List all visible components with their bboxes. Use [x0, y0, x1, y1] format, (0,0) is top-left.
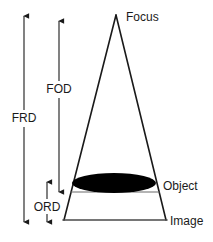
ord-label: ORD	[34, 200, 61, 214]
dimension-fod: FOD	[46, 21, 72, 192]
diagram-canvas: FRD FOD ORD Focus Object Image	[0, 0, 213, 242]
dimension-frd: FRD	[12, 16, 37, 222]
object-label: Object	[163, 179, 198, 193]
radiography-geometry-diagram: FRD FOD ORD Focus Object Image	[0, 0, 213, 242]
image-label: Image	[170, 214, 204, 228]
frd-label: FRD	[12, 111, 37, 125]
focus-label: Focus	[126, 10, 159, 24]
fod-label: FOD	[46, 82, 72, 96]
dimension-ord: ORD	[34, 182, 61, 222]
object-ellipse	[72, 173, 156, 193]
